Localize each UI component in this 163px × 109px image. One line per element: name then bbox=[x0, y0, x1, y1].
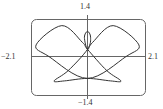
x-max-label: 2.1 bbox=[148, 53, 158, 61]
y-min-label: −1.4 bbox=[78, 99, 93, 107]
x-min-label: −2.1 bbox=[1, 53, 16, 61]
plot-frame bbox=[32, 20, 146, 96]
y-max-label: 1.4 bbox=[80, 3, 90, 11]
parametric-plot bbox=[0, 0, 163, 109]
